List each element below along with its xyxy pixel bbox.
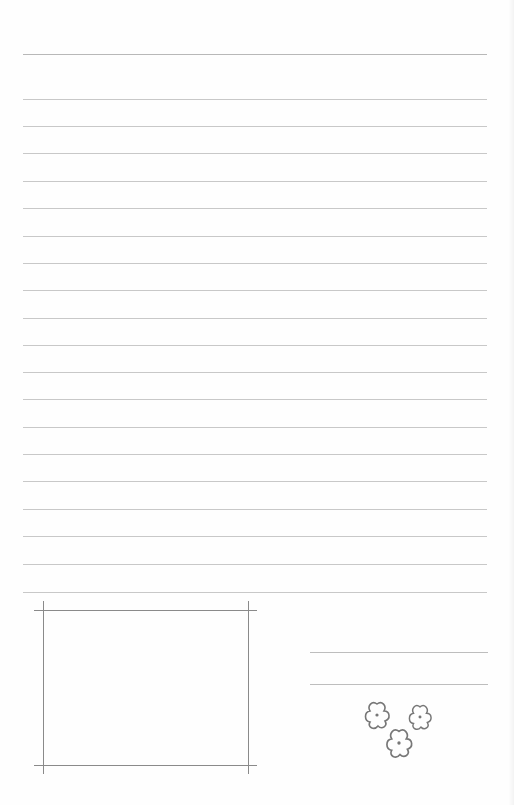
writing-line [23,126,487,127]
writing-line [23,481,487,482]
page-edge-shadow [508,0,514,805]
writing-line [23,509,487,510]
writing-line [23,181,487,182]
writing-line [23,454,487,455]
lined-paper [0,0,514,805]
flower-icon [366,703,390,729]
frame-left-line [43,601,44,774]
writing-line [23,536,487,537]
writing-line [23,153,487,154]
flower-icon [409,706,431,730]
flower-cluster-icon [355,695,445,765]
frame-right-line [248,601,249,774]
writing-line [23,263,487,264]
writing-line [23,564,487,565]
writing-line [23,427,487,428]
writing-line [23,345,487,346]
writing-line [23,54,487,55]
frame-bottom-line [34,765,257,766]
writing-line [23,399,487,400]
writing-line [23,372,487,373]
signature-line-2 [310,684,488,685]
flower-icon [387,730,412,757]
writing-line [23,236,487,237]
writing-line [23,99,487,100]
writing-line [23,318,487,319]
frame-top-line [34,610,257,611]
writing-line [23,290,487,291]
writing-line [23,592,487,593]
signature-line-1 [310,652,488,653]
writing-line [23,208,487,209]
